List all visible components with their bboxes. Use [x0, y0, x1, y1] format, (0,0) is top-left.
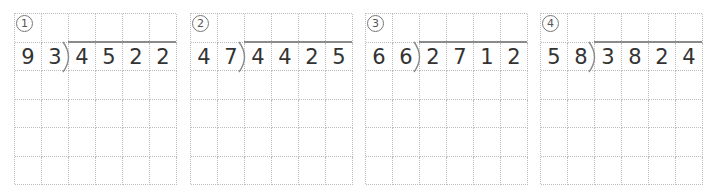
work-cell[interactable]	[69, 100, 96, 129]
work-cell[interactable]	[420, 71, 447, 100]
quotient-cell[interactable]	[622, 14, 649, 43]
work-cell[interactable]	[123, 100, 150, 129]
quotient-cell[interactable]	[69, 14, 96, 43]
work-cell[interactable]	[191, 128, 218, 157]
work-cell[interactable]	[474, 157, 501, 186]
work-cell[interactable]	[272, 128, 299, 157]
work-cell[interactable]	[272, 100, 299, 129]
quotient-cell[interactable]	[676, 14, 703, 43]
work-cell[interactable]	[447, 128, 474, 157]
work-cell[interactable]	[568, 128, 595, 157]
work-cell[interactable]	[150, 100, 177, 129]
work-cell[interactable]	[15, 128, 42, 157]
work-cell[interactable]	[245, 128, 272, 157]
work-cell[interactable]	[649, 128, 676, 157]
quotient-cell[interactable]	[245, 14, 272, 43]
work-cell[interactable]	[366, 71, 393, 100]
work-cell[interactable]	[299, 100, 326, 129]
work-cell[interactable]	[649, 100, 676, 129]
work-cell[interactable]	[447, 157, 474, 186]
work-cell[interactable]	[123, 128, 150, 157]
work-cell[interactable]	[15, 100, 42, 129]
work-cell[interactable]	[568, 157, 595, 186]
work-cell[interactable]	[299, 71, 326, 100]
work-cell[interactable]	[272, 71, 299, 100]
work-cell[interactable]	[326, 71, 353, 100]
work-cell[interactable]	[541, 157, 568, 186]
quotient-cell[interactable]	[501, 14, 528, 43]
work-cell[interactable]	[541, 128, 568, 157]
work-cell[interactable]	[420, 128, 447, 157]
work-cell[interactable]	[96, 157, 123, 186]
work-cell[interactable]	[191, 100, 218, 129]
quotient-cell[interactable]	[150, 14, 177, 43]
work-cell[interactable]	[649, 71, 676, 100]
work-cell[interactable]	[150, 128, 177, 157]
work-cell[interactable]	[366, 100, 393, 129]
quotient-cell[interactable]	[393, 14, 420, 43]
quotient-cell[interactable]	[272, 14, 299, 43]
quotient-cell[interactable]	[595, 14, 622, 43]
work-cell[interactable]	[366, 128, 393, 157]
work-cell[interactable]	[96, 100, 123, 129]
work-cell[interactable]	[326, 128, 353, 157]
work-cell[interactable]	[218, 71, 245, 100]
work-cell[interactable]	[649, 157, 676, 186]
work-cell[interactable]	[501, 100, 528, 129]
work-cell[interactable]	[447, 71, 474, 100]
work-cell[interactable]	[15, 71, 42, 100]
work-cell[interactable]	[568, 100, 595, 129]
work-cell[interactable]	[595, 100, 622, 129]
work-cell[interactable]	[541, 71, 568, 100]
work-cell[interactable]	[501, 128, 528, 157]
quotient-cell[interactable]	[326, 14, 353, 43]
quotient-cell[interactable]	[123, 14, 150, 43]
work-cell[interactable]	[15, 157, 42, 186]
work-cell[interactable]	[420, 157, 447, 186]
quotient-cell[interactable]	[96, 14, 123, 43]
work-cell[interactable]	[501, 71, 528, 100]
work-cell[interactable]	[191, 157, 218, 186]
quotient-cell[interactable]	[299, 14, 326, 43]
work-cell[interactable]	[393, 128, 420, 157]
work-cell[interactable]	[150, 157, 177, 186]
work-cell[interactable]	[245, 157, 272, 186]
quotient-cell[interactable]	[420, 14, 447, 43]
work-cell[interactable]	[474, 128, 501, 157]
work-cell[interactable]	[272, 157, 299, 186]
work-cell[interactable]	[299, 157, 326, 186]
work-cell[interactable]	[69, 157, 96, 186]
work-cell[interactable]	[326, 157, 353, 186]
work-cell[interactable]	[568, 71, 595, 100]
work-cell[interactable]	[42, 128, 69, 157]
work-cell[interactable]	[393, 71, 420, 100]
work-cell[interactable]	[447, 100, 474, 129]
work-cell[interactable]	[676, 157, 703, 186]
work-cell[interactable]	[622, 157, 649, 186]
work-cell[interactable]	[420, 100, 447, 129]
quotient-cell[interactable]	[42, 14, 69, 43]
work-cell[interactable]	[595, 71, 622, 100]
quotient-cell[interactable]	[649, 14, 676, 43]
work-cell[interactable]	[123, 71, 150, 100]
work-cell[interactable]	[191, 71, 218, 100]
work-cell[interactable]	[218, 157, 245, 186]
work-cell[interactable]	[622, 71, 649, 100]
quotient-cell[interactable]	[568, 14, 595, 43]
work-cell[interactable]	[622, 100, 649, 129]
work-cell[interactable]	[218, 128, 245, 157]
work-cell[interactable]	[393, 157, 420, 186]
work-cell[interactable]	[245, 71, 272, 100]
work-cell[interactable]	[474, 71, 501, 100]
work-cell[interactable]	[676, 100, 703, 129]
work-cell[interactable]	[96, 71, 123, 100]
work-cell[interactable]	[595, 128, 622, 157]
work-cell[interactable]	[676, 71, 703, 100]
work-cell[interactable]	[366, 157, 393, 186]
work-cell[interactable]	[595, 157, 622, 186]
work-cell[interactable]	[69, 71, 96, 100]
work-cell[interactable]	[541, 100, 568, 129]
work-cell[interactable]	[96, 128, 123, 157]
work-cell[interactable]	[245, 100, 272, 129]
work-cell[interactable]	[326, 100, 353, 129]
